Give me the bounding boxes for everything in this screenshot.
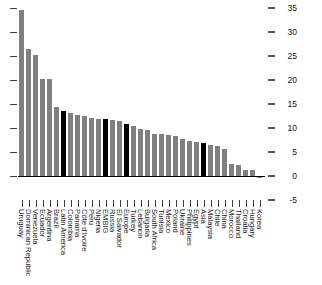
x-axis-tick [18, 200, 25, 207]
bar-cell [116, 8, 123, 200]
tick-dash-icon [268, 175, 275, 176]
x-axis-tick [60, 200, 67, 207]
tick-mark-icon [29, 200, 30, 207]
tick-mark-icon [57, 200, 58, 207]
tick-mark-icon [204, 200, 205, 207]
tick-dash-icon [268, 103, 275, 104]
bar [145, 130, 150, 176]
bar [103, 119, 108, 176]
y-axis-left-tick [10, 176, 17, 177]
x-axis-tick [25, 200, 32, 207]
y-axis-left-tick [10, 152, 17, 153]
tick-mark-icon [246, 200, 247, 207]
bar-cell [228, 8, 235, 200]
bar-series [18, 8, 263, 200]
x-axis-label: Korea [255, 209, 263, 229]
bar [131, 126, 136, 176]
bar [33, 55, 38, 176]
x-axis-tick [74, 200, 81, 207]
x-axis-tick [207, 200, 214, 207]
bar-cell [46, 8, 53, 200]
bar-cell [60, 8, 67, 200]
bar-cell [193, 8, 200, 200]
bar-cell [179, 8, 186, 200]
tick-mark-icon [85, 200, 86, 207]
bar [19, 10, 24, 176]
x-axis-tick [221, 200, 228, 207]
bar-cell [123, 8, 130, 200]
bar-cell [39, 8, 46, 200]
tick-mark-icon [120, 200, 121, 207]
bar [222, 149, 227, 176]
tick-mark-icon [218, 200, 219, 207]
tick-mark-icon [225, 200, 226, 207]
bar-cell [214, 8, 221, 200]
y-axis-left-tick [10, 104, 17, 105]
tick-mark-icon [260, 200, 261, 207]
bar-cell [158, 8, 165, 200]
tick-mark-icon [211, 200, 212, 207]
y-axis-left-tick [10, 80, 17, 81]
bar-cell [130, 8, 137, 200]
bar-cell [88, 8, 95, 200]
tick-mark-icon [64, 200, 65, 207]
bar [68, 113, 73, 176]
bar [54, 107, 59, 176]
bar-cell [102, 8, 109, 200]
x-axis-tick [165, 200, 172, 207]
tick-mark-icon [169, 200, 170, 207]
bar [40, 79, 45, 176]
x-axis-tick [172, 200, 179, 207]
x-axis-tick [67, 200, 74, 207]
x-axis-tick [214, 200, 221, 207]
bar-cell [151, 8, 158, 200]
tick-mark-icon [190, 200, 191, 207]
tick-mark-icon [22, 200, 23, 207]
tick-mark-icon [78, 200, 79, 207]
bar [180, 139, 185, 176]
bar [208, 145, 213, 176]
x-axis-tick [228, 200, 235, 207]
x-axis-tick [158, 200, 165, 207]
bar [89, 118, 94, 176]
bar [236, 165, 241, 176]
x-axis-tick [32, 200, 39, 207]
tick-mark-icon [176, 200, 177, 207]
y-axis-tick-label: 30 [279, 27, 297, 37]
tick-mark-icon [148, 200, 149, 207]
bar-cell [137, 8, 144, 200]
bar-cell [53, 8, 60, 200]
bar-cell [144, 8, 151, 200]
bar [166, 135, 171, 176]
tick-mark-icon [239, 200, 240, 207]
bar [47, 79, 52, 176]
x-axis-label-cell: Korea [256, 209, 263, 285]
x-axis-tick [235, 200, 242, 207]
y-axis-left-tick [10, 128, 17, 129]
x-axis-tick [53, 200, 60, 207]
x-axis-tick [179, 200, 186, 207]
x-axis-tick [123, 200, 130, 207]
bar-cell [235, 8, 242, 200]
x-axis-tick [242, 200, 249, 207]
plot-area [18, 8, 263, 200]
y-axis: 35302520151050-5 [268, 0, 322, 285]
bar [96, 119, 101, 176]
bar [110, 120, 115, 176]
y-axis-tick-label: 25 [279, 51, 297, 61]
tick-mark-icon [92, 200, 93, 207]
tick-mark-icon [197, 200, 198, 207]
tick-mark-icon [43, 200, 44, 207]
bar-cell [109, 8, 116, 200]
bar-cell [67, 8, 74, 200]
bar-cell [95, 8, 102, 200]
x-axis-tick [144, 200, 151, 207]
tick-dash-icon [268, 151, 275, 152]
x-axis-tick [116, 200, 123, 207]
tick-dash-icon [268, 31, 275, 32]
y-axis-left-tick [10, 56, 17, 57]
x-axis-tick [88, 200, 95, 207]
bar-cell [165, 8, 172, 200]
tick-dash-icon [268, 127, 275, 128]
bar-cell [32, 8, 39, 200]
